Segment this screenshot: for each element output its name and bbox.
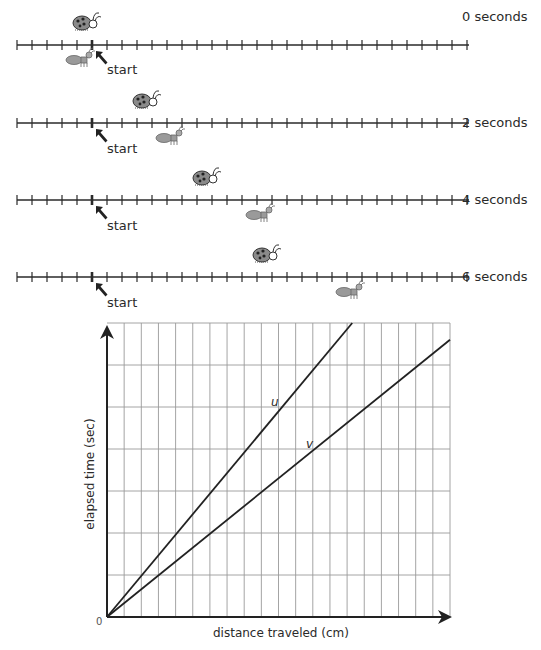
x-axis-label: distance traveled (cm) — [213, 626, 349, 640]
start-arrow-icon — [96, 206, 108, 220]
start-arrow-icon — [96, 129, 108, 143]
start-arrow-icon — [96, 283, 108, 297]
ant-icon — [246, 203, 275, 222]
ladybug-icon — [73, 13, 101, 30]
start-label-6: start — [107, 295, 137, 310]
ladybug-icon — [133, 91, 161, 108]
start-label-0: start — [107, 62, 137, 77]
start-arrow-icon — [96, 51, 108, 65]
start-label-4: start — [107, 218, 137, 233]
ant-icon — [336, 280, 365, 299]
motion-diagram — [0, 0, 541, 650]
line-u-label: u — [271, 395, 279, 409]
time-label-6: 6 seconds — [462, 269, 528, 284]
time-label-2: 2 seconds — [462, 115, 528, 130]
start-label-2: start — [107, 141, 137, 156]
line-v-label: v — [306, 437, 313, 451]
ladybug-icon — [193, 168, 221, 185]
ant-icon — [156, 126, 185, 145]
line-u — [107, 323, 352, 617]
ladybug-icon — [253, 245, 281, 262]
y-axis-label: elapsed time (sec) — [83, 414, 97, 534]
ant-icon — [66, 48, 95, 67]
time-label-0: 0 seconds — [462, 9, 528, 24]
time-label-4: 4 seconds — [462, 192, 528, 207]
origin-label: 0 — [96, 616, 102, 627]
